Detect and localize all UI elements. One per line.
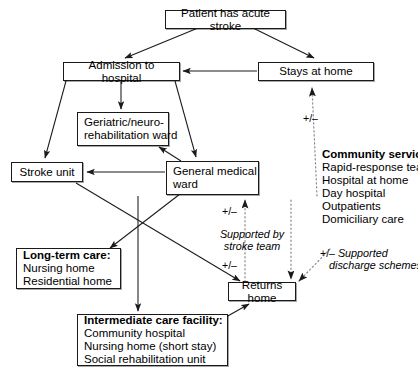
edge-intermediate-to-returns-home xyxy=(226,304,249,317)
community-services-header: Community services: xyxy=(322,148,418,161)
node-label: Stays at home xyxy=(259,65,373,78)
intermediate-care-header: Intermediate care facility: xyxy=(84,314,221,327)
intermediate-care-item-1: Community hospital xyxy=(84,327,221,340)
node-label: Geriatric/neuro- rehabilitation ward xyxy=(78,116,168,142)
edge-dotted-to-stays-home xyxy=(312,88,317,196)
node-label: Returns home xyxy=(229,279,295,305)
community-services-item-1: Rapid-response team xyxy=(322,161,418,174)
community-services-item-2: Hospital at home xyxy=(322,174,418,187)
node-label: Patient has acute stroke xyxy=(166,7,285,33)
community-services-item-5: Domiciliary care xyxy=(322,213,418,226)
sign-plus-minus-community: +/– xyxy=(303,112,318,124)
community-services-item-3: Day hospital xyxy=(322,187,418,200)
sign-plus-minus-stroke-team-bottom: +/– xyxy=(222,259,237,271)
node-general-medical-ward[interactable]: General medical ward xyxy=(166,161,259,195)
node-patient-has-acute-stroke[interactable]: Patient has acute stroke xyxy=(165,10,286,29)
edge-general-ward-to-geriatric xyxy=(159,147,181,161)
node-label-line2: rehabilitation ward xyxy=(84,129,162,142)
edge-general-ward-to-longterm-care xyxy=(110,194,180,248)
supported-by-line-2: stroke team xyxy=(207,240,297,252)
sign-plus-minus-stroke-team-top: +/– xyxy=(222,205,237,217)
discharge-line-1: +/–Supported xyxy=(320,247,418,259)
long-term-care-item-2: Residential home xyxy=(23,275,114,288)
long-term-care-item-1: Nursing home xyxy=(23,262,114,275)
edge-admission-to-general-ward xyxy=(175,81,196,157)
node-label: General medical ward xyxy=(167,165,258,191)
edge-acute-to-stays-home xyxy=(253,28,314,58)
node-intermediate-care-facility[interactable]: Intermediate care facility: Community ho… xyxy=(77,314,228,366)
edge-admission-to-stroke-unit xyxy=(45,81,66,158)
flowchart-canvas: Patient has acute stroke Admission to ho… xyxy=(0,0,418,378)
intermediate-care-item-2: Nursing home (short stay) xyxy=(84,340,221,353)
node-returns-home[interactable]: Returns home xyxy=(228,282,296,301)
node-stroke-unit[interactable]: Stroke unit xyxy=(11,162,83,182)
annotation-supported-by-stroke-team: Supported by stroke team xyxy=(207,228,297,253)
discharge-text-1: Supported xyxy=(338,247,388,259)
node-stays-at-home[interactable]: Stays at home xyxy=(258,62,374,81)
node-label-line1: Geriatric/neuro- xyxy=(84,116,162,129)
node-label: Stroke unit xyxy=(12,166,82,179)
intermediate-care-item-3: Social rehabilitation unit xyxy=(84,353,221,366)
discharge-sign: +/– xyxy=(320,247,335,259)
discharge-line-2: discharge schemes xyxy=(329,259,418,271)
node-geriatric-neuro-rehabilitation-ward[interactable]: Geriatric/neuro- rehabilitation ward xyxy=(77,112,169,146)
node-admission-to-hospital[interactable]: Admission to hospital xyxy=(63,62,180,81)
node-label: Intermediate care facility: Community ho… xyxy=(78,314,227,366)
edge-acute-to-admission xyxy=(125,28,198,58)
node-label-line2: ward xyxy=(173,178,252,191)
node-label-line1: General medical xyxy=(173,165,252,178)
supported-by-line-1: Supported by xyxy=(207,228,297,240)
node-label: Long-term care: Nursing home Residential… xyxy=(17,249,120,288)
node-label: Admission to hospital xyxy=(64,59,179,85)
annotation-community-services: Community services: Rapid-response team … xyxy=(322,148,418,226)
community-services-item-4: Outpatients xyxy=(322,200,418,213)
long-term-care-header: Long-term care: xyxy=(23,249,114,262)
annotation-supported-discharge-schemes: +/–Supported discharge schemes xyxy=(320,247,418,272)
node-long-term-care[interactable]: Long-term care: Nursing home Residential… xyxy=(16,248,121,289)
